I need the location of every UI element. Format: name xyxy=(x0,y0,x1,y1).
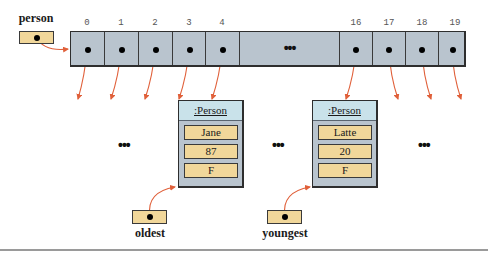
reference-dot xyxy=(419,47,425,53)
index-label-17: 17 xyxy=(372,18,406,28)
field-age: 87 xyxy=(184,144,238,159)
reference-dot xyxy=(34,35,40,41)
person-reference-box xyxy=(19,31,54,44)
reference-dot xyxy=(353,47,359,53)
reference-dot xyxy=(153,47,159,53)
index-label-19: 19 xyxy=(438,18,472,28)
index-label-0: 0 xyxy=(70,18,104,28)
array-cell-19 xyxy=(439,32,465,65)
array-cell-17 xyxy=(373,32,406,65)
field-gender: F xyxy=(318,163,372,178)
index-label-3: 3 xyxy=(172,18,206,28)
person-object-latte: :Person Latte 20 F xyxy=(312,100,378,188)
youngest-reference-box xyxy=(267,210,302,224)
object-class-header: :Person xyxy=(313,101,376,121)
ellipsis-left: ••• xyxy=(118,137,130,153)
array-cell-3 xyxy=(173,32,206,65)
oldest-variable-label: oldest xyxy=(122,226,178,241)
class-label: :Person xyxy=(194,104,227,116)
field-gender: F xyxy=(184,163,238,178)
reference-dot xyxy=(85,47,91,53)
reference-dot xyxy=(147,214,153,220)
array-cell-1 xyxy=(105,32,139,65)
index-label-4: 4 xyxy=(205,18,239,28)
field-name: Latte xyxy=(318,125,372,140)
youngest-variable-label: youngest xyxy=(254,226,316,241)
index-label-2: 2 xyxy=(138,18,172,28)
bottom-divider xyxy=(0,249,488,251)
reference-dot xyxy=(282,214,288,220)
array-cell-18 xyxy=(406,32,439,65)
reference-dot xyxy=(220,47,226,53)
person-variable-label: person xyxy=(14,11,58,26)
person-object-jane: :Person Jane 87 F xyxy=(178,100,244,188)
array-ellipsis: ••• xyxy=(284,40,296,56)
reference-dot xyxy=(187,47,193,53)
array-cell-4 xyxy=(206,32,240,65)
index-label-18: 18 xyxy=(405,18,439,28)
ellipsis-right: ••• xyxy=(418,137,430,153)
index-label-1: 1 xyxy=(104,18,138,28)
oldest-reference-box xyxy=(132,210,167,224)
field-name: Jane xyxy=(184,125,238,140)
reference-dot xyxy=(119,47,125,53)
array-cell-0 xyxy=(71,32,105,65)
array-cell-16 xyxy=(340,32,373,65)
reference-dot xyxy=(386,47,392,53)
array-cell-ellipsis: ••• xyxy=(240,32,340,65)
class-label: :Person xyxy=(328,104,361,116)
reference-dot xyxy=(450,47,456,53)
ellipsis-middle: ••• xyxy=(272,137,284,153)
field-age: 20 xyxy=(318,144,372,159)
index-label-16: 16 xyxy=(339,18,373,28)
array-cell-2 xyxy=(139,32,173,65)
person-array: ••• xyxy=(70,31,466,67)
object-class-header: :Person xyxy=(179,101,242,121)
